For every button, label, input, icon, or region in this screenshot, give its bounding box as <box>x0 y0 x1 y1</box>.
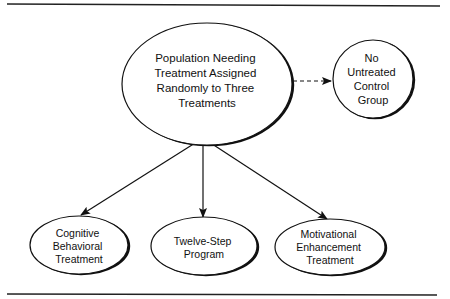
node-motivational-label: Motivational Enhancement Treatment <box>296 228 364 266</box>
node-twelve-step: Twelve-Step Program <box>151 217 258 275</box>
node-cognitive-label: Cognitive Behavioral Treatment <box>53 227 106 265</box>
bottom-rule <box>7 294 437 295</box>
edge-population-to-cognitive <box>81 138 203 215</box>
flow-diagram: Population Needing Treatment Assigned Ra… <box>0 0 450 299</box>
top-rule <box>7 4 440 6</box>
node-motivational: Motivational Enhancement Treatment <box>275 219 386 275</box>
edge-population-to-motivational <box>203 138 327 219</box>
node-population: Population Needing Treatment Assigned Ra… <box>122 23 293 145</box>
node-control: No Untreated Control Group <box>333 40 414 118</box>
node-cognitive: Cognitive Behavioral Treatment <box>30 216 129 274</box>
